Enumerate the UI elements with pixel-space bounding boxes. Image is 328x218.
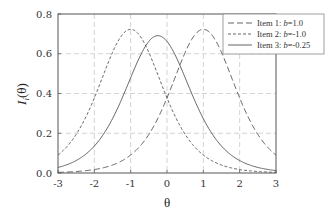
- legend-label-item-3: Item 3: b=-0.25: [257, 40, 310, 50]
- x-tick-label: 2: [236, 178, 242, 189]
- y-tick-label: 0.8: [36, 9, 52, 20]
- legend-label-item-1: Item 1: b=1.0: [257, 18, 303, 28]
- x-tick-label: -1: [126, 178, 136, 189]
- y-ticks: 0.00.20.40.60.8: [36, 9, 61, 179]
- y-axis-label: Ii(θ): [14, 83, 31, 106]
- x-tick-label: -2: [89, 178, 99, 189]
- y-tick-label: 0.6: [36, 48, 52, 59]
- svg-text:Ii(θ): Ii(θ): [14, 83, 31, 106]
- legend-label-item-2: Item 2: b=-1.0: [257, 29, 306, 39]
- y-tick-label: 0.0: [36, 168, 52, 179]
- x-tick-label: 1: [200, 178, 206, 189]
- x-tick-label: -3: [53, 178, 63, 189]
- legend: Item 1: b=1.0 Item 2: b=-1.0 Item 3: b=-…: [223, 14, 324, 54]
- x-tick-label: 3: [273, 178, 279, 189]
- x-tick-label: 0: [164, 178, 170, 189]
- item-information-chart: -3-2-10123 0.00.20.40.60.8 θ Ii(θ) Item …: [0, 0, 328, 218]
- y-tick-label: 0.4: [36, 88, 52, 99]
- y-label-arg: (θ): [14, 83, 29, 98]
- x-axis-label: θ: [164, 195, 170, 210]
- y-tick-label: 0.2: [36, 128, 52, 139]
